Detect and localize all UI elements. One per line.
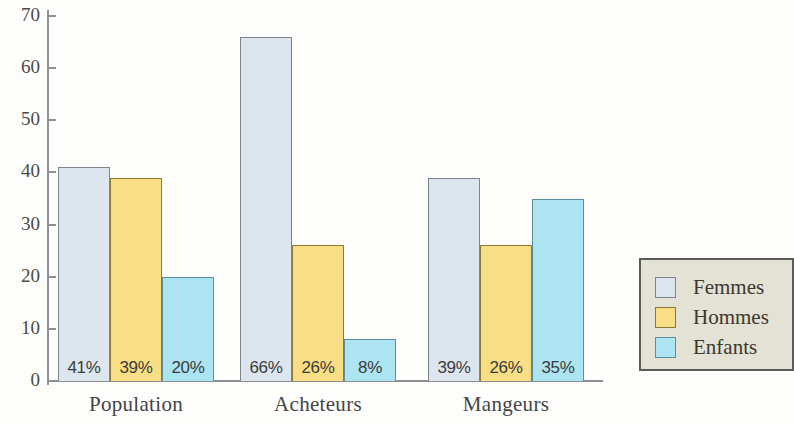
y-axis-tick-label: 10 bbox=[0, 318, 40, 337]
y-axis-tick-label: 70 bbox=[0, 5, 40, 24]
y-axis-tick-label: 40 bbox=[0, 161, 40, 180]
bar: 20% bbox=[162, 277, 214, 381]
x-axis-category-label: Population bbox=[58, 392, 214, 417]
y-axis-tick-label: 50 bbox=[0, 109, 40, 128]
bar-value-label: 8% bbox=[345, 358, 395, 378]
x-axis-category-label: Mangeurs bbox=[428, 392, 584, 417]
y-axis-tick bbox=[47, 67, 56, 69]
y-axis-tick-label: 60 bbox=[0, 57, 40, 76]
bar: 8% bbox=[344, 339, 396, 381]
y-axis-tick-label: 30 bbox=[0, 214, 40, 233]
bar-value-label: 20% bbox=[163, 358, 213, 378]
bar-value-label: 35% bbox=[533, 358, 583, 378]
bar-value-label: 39% bbox=[111, 358, 161, 378]
legend-label: Enfants bbox=[693, 335, 757, 360]
bar-chart: 010203040506070 41%39%20%66%26%8%39%26%3… bbox=[0, 0, 794, 424]
legend-label: Femmes bbox=[693, 275, 764, 300]
y-axis-tick bbox=[47, 171, 56, 173]
bar: 26% bbox=[480, 245, 532, 381]
y-axis-tick bbox=[47, 276, 56, 278]
legend-label: Hommes bbox=[693, 305, 769, 330]
y-axis-tick-label: 0 bbox=[0, 370, 40, 389]
legend-item: Hommes bbox=[655, 304, 769, 330]
bar-value-label: 41% bbox=[59, 358, 109, 378]
plot-area: 010203040506070 41%39%20%66%26%8%39%26%3… bbox=[0, 0, 620, 424]
legend: FemmesHommesEnfants bbox=[639, 258, 794, 371]
bar: 39% bbox=[428, 178, 480, 381]
x-axis-category-label: Acheteurs bbox=[240, 392, 396, 417]
y-axis-tick-label: 20 bbox=[0, 266, 40, 285]
legend-swatch bbox=[655, 307, 676, 328]
bar: 39% bbox=[110, 178, 162, 381]
y-axis-tick bbox=[47, 224, 56, 226]
y-axis-tick bbox=[47, 15, 56, 17]
legend-item: Femmes bbox=[655, 274, 764, 300]
bar-value-label: 66% bbox=[241, 358, 291, 378]
legend-swatch bbox=[655, 277, 676, 298]
bar: 66% bbox=[240, 37, 292, 381]
legend-item: Enfants bbox=[655, 334, 757, 360]
bar-value-label: 26% bbox=[293, 358, 343, 378]
bar: 41% bbox=[58, 167, 110, 381]
y-axis-tick bbox=[47, 380, 56, 382]
y-axis-tick bbox=[47, 119, 56, 121]
legend-swatch bbox=[655, 337, 676, 358]
bar-value-label: 26% bbox=[481, 358, 531, 378]
bar: 26% bbox=[292, 245, 344, 381]
y-axis-tick bbox=[47, 328, 56, 330]
bar: 35% bbox=[532, 199, 584, 382]
bar-value-label: 39% bbox=[429, 358, 479, 378]
